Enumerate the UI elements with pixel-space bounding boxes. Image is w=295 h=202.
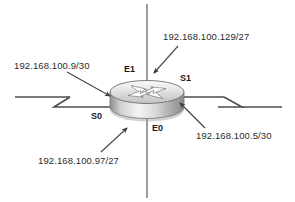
ip-label-s1: 192.168.100.5/30: [196, 130, 272, 141]
serial-zigzag-right: [218, 97, 242, 107]
serial-zigzag-left: [54, 97, 76, 107]
ip-label-s0: 192.168.100.9/30: [14, 60, 90, 71]
interface-label-e0: E0: [152, 123, 163, 133]
network-diagram: 192.168.100.9/30 192.168.100.129/27 192.…: [0, 0, 295, 202]
arrow-to-e1: [154, 46, 178, 73]
cisco-router-icon: [110, 81, 184, 122]
ip-label-e1: 192.168.100.129/27: [163, 31, 249, 42]
arrow-to-s1: [180, 103, 205, 128]
diagram-canvas: [0, 0, 295, 202]
interface-label-s0: S0: [91, 111, 102, 121]
arrow-to-e0: [101, 128, 127, 152]
interface-label-s1: S1: [180, 73, 191, 83]
serial-link-left: [15, 97, 118, 107]
serial-link-right: [176, 97, 282, 107]
ip-label-e0: 192.168.100.97/27: [38, 155, 119, 166]
arrow-to-s0: [67, 72, 110, 96]
interface-label-e1: E1: [124, 64, 135, 74]
